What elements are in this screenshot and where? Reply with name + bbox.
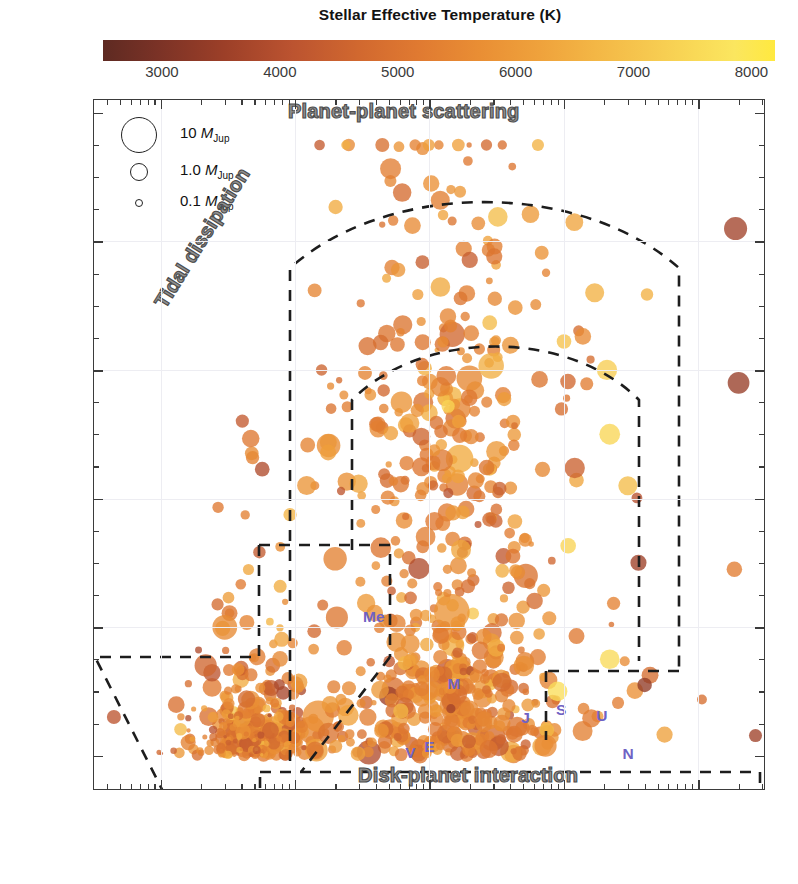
x-tick-minor <box>274 784 275 789</box>
y-tick-minor <box>94 177 99 178</box>
x-tick-minor <box>359 100 360 105</box>
colorbar-tick-labels: 300040005000600070008000 <box>100 63 780 85</box>
x-tick-minor <box>668 784 669 789</box>
y-tick-minor <box>94 402 99 403</box>
x-tick-minor <box>282 784 283 789</box>
y-tick-minor <box>94 691 99 692</box>
y-tick-minor <box>94 209 99 210</box>
x-tick <box>295 780 297 789</box>
x-tick-minor <box>510 100 511 105</box>
x-tick-minor <box>543 784 544 789</box>
x-tick-minor <box>107 784 108 789</box>
x-tick-minor <box>289 100 290 105</box>
x-tick <box>161 100 163 109</box>
x-tick-minor <box>658 100 659 105</box>
x-tick-minor <box>225 100 226 105</box>
gridline-x <box>295 100 296 789</box>
x-tick-minor <box>645 100 646 105</box>
y-tick-minor <box>759 274 764 275</box>
colorbar-gradient <box>103 40 775 61</box>
colorbar-tick-3000: 3000 <box>145 63 178 80</box>
y-tick-minor <box>94 306 99 307</box>
x-tick-minor <box>493 100 494 105</box>
y-tick-label-0.8: 0.8 <box>93 231 94 252</box>
y-tick-minor <box>759 659 764 660</box>
y-tick-minor <box>759 145 764 146</box>
x-tick-minor <box>534 100 535 105</box>
x-tick-minor <box>493 784 494 789</box>
x-tick <box>564 780 566 789</box>
x-tick-minor <box>241 784 242 789</box>
x-tick-minor <box>254 100 255 105</box>
y-tick-minor <box>759 563 764 564</box>
y-tick-minor <box>759 177 764 178</box>
x-tick-minor <box>523 100 524 105</box>
y-tick-minor <box>94 274 99 275</box>
x-tick <box>429 100 431 109</box>
x-tick-minor <box>254 784 255 789</box>
y-tick <box>755 756 764 758</box>
x-tick-minor <box>628 100 629 105</box>
y-tick-label-1.0: 1.0 <box>93 102 94 123</box>
solar-system-label-V: V <box>405 744 415 762</box>
x-tick-minor <box>423 784 424 789</box>
x-tick-minor <box>148 100 149 105</box>
y-tick <box>755 627 764 629</box>
x-tick-minor <box>685 100 686 105</box>
y-tick-minor <box>759 402 764 403</box>
solar-system-label-U: U <box>596 707 607 725</box>
y-tick <box>755 241 764 243</box>
y-tick-minor <box>759 691 764 692</box>
colorbar-tick-4000: 4000 <box>263 63 296 80</box>
solar-system-label-J: J <box>521 709 530 727</box>
y-tick-minor <box>94 499 99 500</box>
x-tick-minor <box>409 784 410 789</box>
legend-circle-10 <box>121 117 157 153</box>
y-tick-minor <box>759 338 764 339</box>
y-tick <box>94 370 103 372</box>
x-tick <box>564 100 566 109</box>
y-tick-label-0.2: 0.2 <box>93 617 94 638</box>
x-tick-minor <box>154 784 155 789</box>
y-tick-minor <box>759 209 764 210</box>
x-tick-minor <box>762 784 763 789</box>
colorbar-title: Stellar Effective Temperature (K) <box>100 6 780 24</box>
y-tick-minor <box>759 466 764 467</box>
y-axis-title: Eccentricity <box>93 393 95 495</box>
x-tick-minor <box>416 784 417 789</box>
y-tick-minor <box>94 145 99 146</box>
x-tick-minor <box>558 784 559 789</box>
x-tick-minor <box>692 100 693 105</box>
x-tick-minor <box>628 784 629 789</box>
colorbar: Stellar Effective Temperature (K) 300040… <box>100 6 780 86</box>
x-tick-minor <box>677 100 678 105</box>
x-tick-minor <box>677 784 678 789</box>
planet-planet-scattering-label: Planet-planet scattering <box>288 100 520 123</box>
colorbar-tick-5000: 5000 <box>381 63 414 80</box>
y-tick <box>94 627 103 629</box>
x-tick-minor <box>409 100 410 105</box>
x-tick-minor <box>604 100 605 105</box>
x-tick-minor <box>470 100 471 105</box>
x-tick-minor <box>241 100 242 105</box>
y-tick-label-0.0: 0.0 <box>93 745 94 766</box>
y-tick-minor <box>94 466 99 467</box>
y-tick-minor <box>94 434 99 435</box>
x-tick-minor <box>658 784 659 789</box>
y-tick-label-0.6: 0.6 <box>93 360 94 381</box>
x-tick-minor <box>376 100 377 105</box>
legend-circle-1.0 <box>130 163 148 181</box>
x-tick-minor <box>282 100 283 105</box>
y-tick-minor <box>94 338 99 339</box>
x-tick-minor <box>274 100 275 105</box>
x-tick-minor <box>416 100 417 105</box>
solar-system-label-S: S <box>556 701 566 719</box>
x-tick-minor <box>140 100 141 105</box>
y-tick-minor <box>94 531 99 532</box>
x-tick-minor <box>131 100 132 105</box>
colorbar-tick-6000: 6000 <box>499 63 532 80</box>
x-tick-minor <box>692 784 693 789</box>
x-tick-minor <box>543 100 544 105</box>
y-tick-minor <box>759 499 764 500</box>
x-tick-minor <box>551 784 552 789</box>
